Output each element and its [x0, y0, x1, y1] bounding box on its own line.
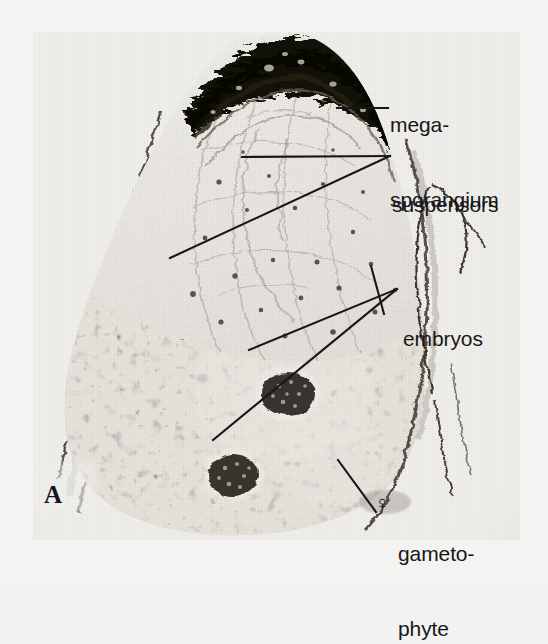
leader-embryos-2 — [213, 289, 397, 440]
leader-embryos-1 — [249, 289, 397, 350]
female-symbol: ♀ — [374, 491, 390, 516]
panel-letter-a: A — [44, 481, 62, 509]
label-gametophyte: gameto- phyte — [398, 491, 474, 644]
leader-gametophyte — [338, 460, 376, 512]
label-suspensors-line1: suspensors — [392, 192, 498, 217]
label-gametophyte-line2: phyte — [398, 616, 474, 641]
leader-suspensors-2 — [170, 156, 390, 258]
leader-suspensors-1 — [242, 156, 390, 157]
label-embryos-line1: embryos — [403, 326, 483, 351]
label-megasporangium-line1: mega- — [390, 112, 499, 137]
label-gametophyte-line1: gameto- — [398, 541, 474, 566]
label-embryos: embryos — [403, 276, 483, 401]
leader-embryos-cross — [371, 266, 384, 314]
label-suspensors: suspensors — [392, 142, 498, 267]
